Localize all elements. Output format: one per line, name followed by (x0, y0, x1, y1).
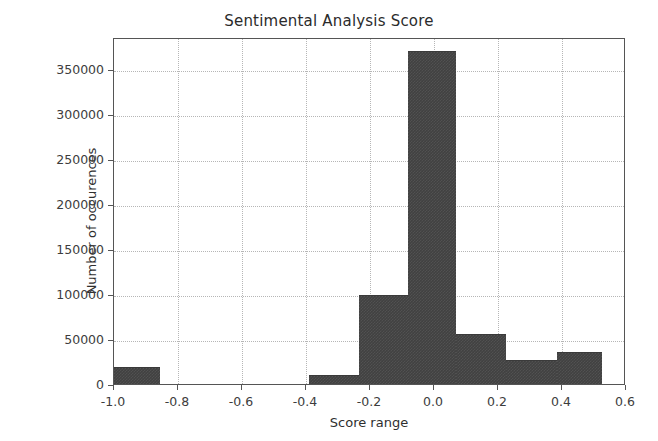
histogram-bar (408, 51, 456, 384)
y-tick-label: 50000 (64, 332, 104, 347)
histogram-bars (114, 39, 624, 384)
histogram-bar (557, 352, 602, 384)
x-tick-mark (305, 385, 306, 390)
x-tick-label: -1.0 (101, 394, 125, 409)
x-tick-label: -0.2 (357, 394, 381, 409)
x-tick-label: 0.2 (487, 394, 507, 409)
x-axis-label: Score range (113, 415, 625, 430)
histogram-bar (114, 367, 160, 384)
x-tick-label: 0.0 (423, 394, 443, 409)
figure-canvas: Sentimental Analysis Score Number of occ… (0, 0, 658, 441)
x-tick-mark (369, 385, 370, 390)
y-tick-label: 250000 (56, 152, 104, 167)
x-tick-label: -0.8 (165, 394, 189, 409)
x-tick-mark (497, 385, 498, 390)
x-tick-label: 0.6 (615, 394, 635, 409)
y-tick-label: 200000 (56, 197, 104, 212)
x-tick-label: 0.4 (551, 394, 571, 409)
y-tick-label: 300000 (56, 107, 104, 122)
x-tick-mark (241, 385, 242, 390)
histogram-bar (359, 295, 409, 384)
x-tick-mark (113, 385, 114, 390)
y-tick-label: 100000 (56, 287, 104, 302)
y-tick-label: 0 (96, 377, 104, 392)
y-axis-label: Number of occurences (84, 147, 99, 294)
chart-title: Sentimental Analysis Score (0, 12, 658, 30)
x-tick-mark (177, 385, 178, 390)
x-tick-label: -0.6 (229, 394, 253, 409)
x-tick-mark (625, 385, 626, 390)
x-tick-label: -0.4 (293, 394, 317, 409)
histogram-bar (309, 375, 359, 384)
y-tick-label: 350000 (56, 62, 104, 77)
histogram-bar (456, 334, 506, 384)
x-tick-mark (561, 385, 562, 390)
histogram-bar (506, 360, 557, 384)
plot-area (113, 38, 625, 385)
x-tick-mark (433, 385, 434, 390)
y-tick-label: 150000 (56, 242, 104, 257)
